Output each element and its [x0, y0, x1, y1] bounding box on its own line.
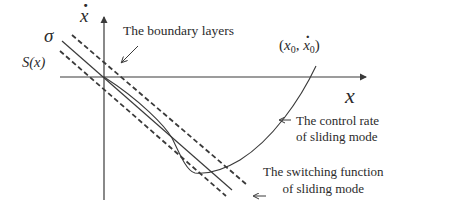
sigma-label: σ — [44, 26, 53, 45]
boundary-layer-upper — [72, 35, 246, 184]
x-axis-label: x — [345, 85, 355, 107]
comma: , — [296, 37, 300, 53]
boundary-layer-lower — [60, 51, 226, 196]
xdot0-base: x — [303, 38, 310, 53]
control-rate-line2: of sliding mode — [296, 129, 379, 144]
switching-function-annotation: The switching function of sliding mode — [263, 164, 384, 196]
y-axis-label: x — [80, 6, 88, 25]
switching-function-line2: of sliding mode — [263, 181, 384, 196]
paren-close: ) — [315, 37, 320, 53]
sliding-surface-line — [62, 41, 232, 190]
initial-point-label: (x0, x0) — [279, 38, 320, 55]
control-rate-annotation: The control rate of sliding mode — [296, 113, 379, 144]
x0-base: x — [284, 37, 291, 53]
control-rate-line1: The control rate — [296, 113, 379, 128]
switching-surface-label: S(x) — [22, 55, 45, 70]
boundary-layers-annotation: The boundary layers — [123, 24, 234, 38]
boundary-layers-arrow — [122, 46, 138, 62]
x-dot-symbol: x — [80, 6, 88, 25]
switching-function-line1: The switching function — [263, 164, 384, 179]
